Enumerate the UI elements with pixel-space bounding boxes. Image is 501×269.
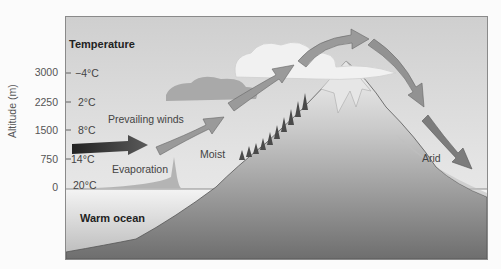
temperature-minus4: −4°C xyxy=(75,67,99,79)
temperature-20: 20°C xyxy=(73,179,96,191)
moist-label: Moist xyxy=(200,148,225,160)
altitude-tick-750: 750 xyxy=(24,153,58,165)
altitude-tick-2250: 2250 xyxy=(24,96,58,108)
evaporation-label: Evaporation xyxy=(112,163,168,175)
warm-ocean-label: Warm ocean xyxy=(80,212,145,224)
temperature-14: 14°C xyxy=(71,153,94,165)
temperature-2: 2°C xyxy=(78,96,96,108)
temperature-8: 8°C xyxy=(78,124,96,136)
altitude-tick-0: 0 xyxy=(24,181,58,193)
wind-arrow-dark xyxy=(72,135,148,155)
arid-label: Arid xyxy=(422,152,441,164)
temperature-heading: Temperature xyxy=(69,38,135,50)
altitude-tick-1500: 1500 xyxy=(24,124,58,136)
diagram-frame: Temperature −4°C 2°C 8°C 14°C 20°C Preva… xyxy=(65,16,488,260)
altitude-tick-3000: 3000 xyxy=(24,66,58,78)
prevailing-winds-label: Prevailing winds xyxy=(108,113,184,125)
y-axis-title: Altitude (m) xyxy=(6,84,18,138)
